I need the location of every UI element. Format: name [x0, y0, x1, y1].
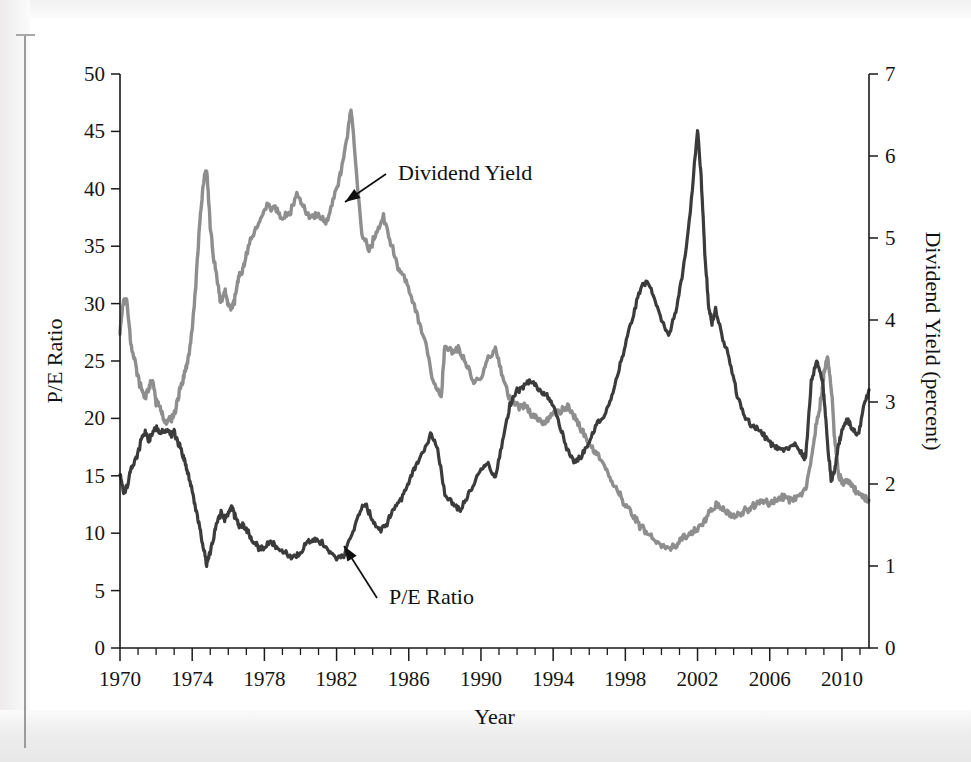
y2-axis-title: Dividend Yield (percent)	[921, 231, 946, 450]
y-axis-tick-label: 15	[84, 464, 105, 488]
x-axis-tick-label: 1982	[316, 667, 358, 691]
annotation-pe-ratio-arrow-head	[344, 546, 357, 562]
x-axis-tick-label: 1986	[388, 667, 430, 691]
y2-axis-tick-label: 1	[885, 554, 896, 578]
chart-figure: 0510152025303540455001234567197019741978…	[0, 0, 971, 762]
y-axis-tick-label: 35	[84, 234, 105, 258]
y2-axis-tick-label: 5	[885, 226, 896, 250]
x-axis-tick-label: 2010	[821, 667, 863, 691]
y-axis-tick-label: 20	[84, 406, 105, 430]
x-axis-tick-label: 1978	[243, 667, 285, 691]
y2-axis-tick-label: 3	[885, 390, 896, 414]
y-axis-tick-label: 45	[84, 119, 105, 143]
x-axis-tick-label: 1998	[604, 667, 646, 691]
y2-axis-tick-label: 6	[885, 144, 896, 168]
annotation-dividend-yield-label: Dividend Yield	[398, 160, 532, 185]
x-axis-tick-label: 1994	[532, 667, 575, 691]
y-axis-tick-label: 10	[84, 521, 105, 545]
y2-axis-tick-label: 0	[885, 636, 896, 660]
y-axis-tick-label: 0	[95, 636, 106, 660]
y-axis-title: P/E Ratio	[42, 319, 67, 404]
y2-axis-tick-label: 7	[885, 62, 896, 86]
x-axis-title: Year	[474, 704, 515, 729]
y-axis-tick-label: 50	[84, 62, 105, 86]
y-axis-tick-label: 5	[95, 579, 106, 603]
y2-axis-tick-label: 2	[885, 472, 896, 496]
x-axis-tick-label: 2006	[749, 667, 791, 691]
x-axis-tick-label: 2002	[677, 667, 719, 691]
y-axis-tick-label: 40	[84, 177, 105, 201]
page-canvas: 0510152025303540455001234567197019741978…	[0, 0, 971, 762]
x-axis-tick-label: 1990	[460, 667, 502, 691]
x-axis-tick-label: 1970	[99, 667, 141, 691]
y-axis-tick-label: 25	[84, 349, 105, 373]
x-axis-tick-label: 1974	[171, 667, 214, 691]
annotation-pe-ratio-label: P/E Ratio	[389, 584, 474, 609]
y2-axis-tick-label: 4	[885, 308, 896, 332]
chart-svg: 0510152025303540455001234567197019741978…	[0, 0, 971, 762]
y-axis-tick-label: 30	[84, 292, 105, 316]
